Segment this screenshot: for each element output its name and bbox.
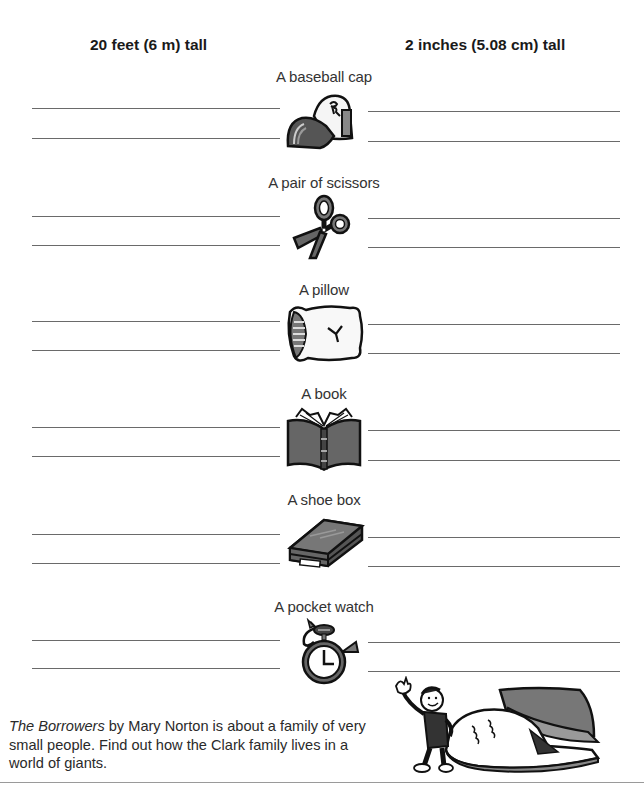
answer-line-giant-5a[interactable] xyxy=(32,534,280,535)
item-label-shoe-box: A shoe box xyxy=(224,491,424,508)
answer-line-tiny-2b[interactable] xyxy=(368,247,620,248)
book-icon xyxy=(280,405,368,473)
answer-line-giant-3a[interactable] xyxy=(32,321,280,322)
answer-line-giant-2b[interactable] xyxy=(32,245,280,246)
answer-line-tiny-1a[interactable] xyxy=(368,111,620,112)
answer-line-tiny-4a[interactable] xyxy=(368,430,620,431)
answer-line-giant-6a[interactable] xyxy=(32,640,280,641)
column-header-giant: 20 feet (6 m) tall xyxy=(90,36,207,54)
pillow-icon xyxy=(280,300,368,368)
pocket-watch-icon xyxy=(280,618,368,686)
scissors-icon xyxy=(280,192,368,260)
answer-line-giant-4a[interactable] xyxy=(32,427,280,428)
page-bottom-divider xyxy=(0,782,644,783)
answer-line-giant-2a[interactable] xyxy=(32,216,280,217)
baseball-cap-icon xyxy=(280,88,368,156)
item-label-pillow: A pillow xyxy=(224,281,424,298)
answer-line-tiny-2a[interactable] xyxy=(368,218,620,219)
item-label-baseball-cap: A baseball cap xyxy=(224,68,424,85)
answer-line-giant-3b[interactable] xyxy=(32,350,280,351)
item-label-scissors: A pair of scissors xyxy=(224,174,424,191)
answer-line-tiny-5a[interactable] xyxy=(368,537,620,538)
answer-line-tiny-3a[interactable] xyxy=(368,324,620,325)
answer-line-tiny-3b[interactable] xyxy=(368,353,620,354)
answer-line-tiny-6b[interactable] xyxy=(368,671,620,672)
shoe-box-icon xyxy=(280,510,368,578)
answer-line-giant-1b[interactable] xyxy=(32,138,280,139)
answer-line-giant-4b[interactable] xyxy=(32,456,280,457)
answer-line-giant-1a[interactable] xyxy=(32,108,280,109)
item-label-book: A book xyxy=(224,385,424,402)
book-title: The Borrowers xyxy=(9,718,105,734)
column-header-tiny: 2 inches (5.08 cm) tall xyxy=(405,36,565,54)
answer-line-tiny-5b[interactable] xyxy=(368,566,620,567)
item-label-pocket-watch: A pocket watch xyxy=(224,598,424,615)
answer-line-tiny-6a[interactable] xyxy=(368,642,620,643)
answer-line-giant-6b[interactable] xyxy=(32,668,280,669)
answer-line-tiny-1b[interactable] xyxy=(368,141,620,142)
book-description: The Borrowers by Mary Norton is about a … xyxy=(9,717,379,773)
boy-beside-giant-shoe-illustration xyxy=(388,676,628,776)
answer-line-tiny-4b[interactable] xyxy=(368,460,620,461)
answer-line-giant-5b[interactable] xyxy=(32,563,280,564)
